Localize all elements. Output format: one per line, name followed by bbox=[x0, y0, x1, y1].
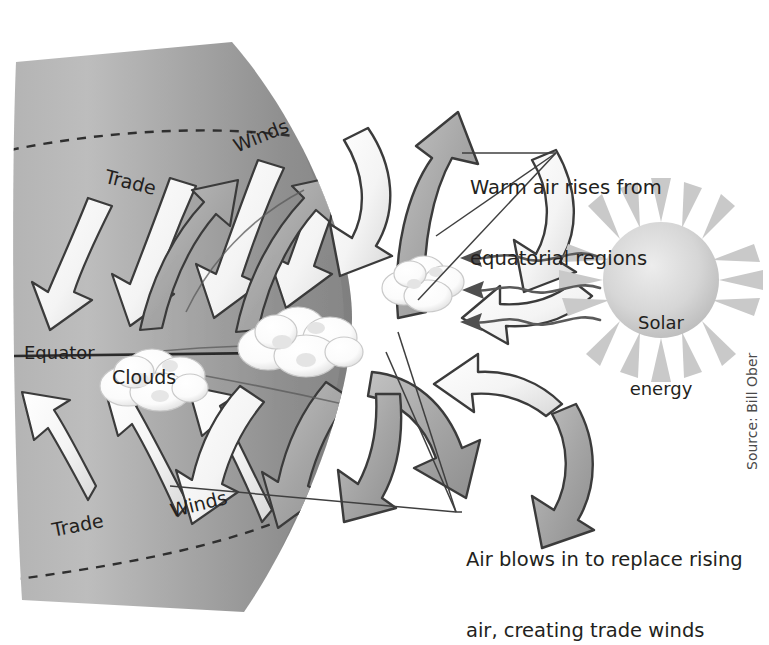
solar-label-line2: energy bbox=[618, 378, 704, 400]
callout-warm-line1: Warm air rises from bbox=[470, 176, 662, 200]
solar-energy-label: Solar energy bbox=[618, 268, 704, 444]
solar-label-line1: Solar bbox=[618, 312, 704, 334]
upper-descending-arrow bbox=[330, 128, 392, 276]
source-credit: Source: Bill Ober bbox=[744, 353, 761, 470]
callout-trade-line2: air, creating trade winds bbox=[466, 619, 743, 643]
callout-trade-winds: Air blows in to replace rising air, crea… bbox=[466, 500, 743, 645]
inflow-arrow-bottom bbox=[434, 354, 562, 416]
callout-trade-line1: Air blows in to replace rising bbox=[466, 548, 743, 572]
clouds-label: Clouds bbox=[112, 366, 176, 389]
equator-label: Equator bbox=[24, 342, 95, 364]
